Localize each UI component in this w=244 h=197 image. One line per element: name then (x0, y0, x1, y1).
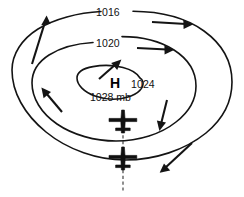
center-pressure-label: 1028 mb (90, 91, 131, 103)
wind-arrow-left (41, 88, 62, 112)
wind-arrow-lower-right (160, 143, 192, 173)
isobar-label-1020: 1020 (96, 37, 120, 49)
weather-diagram: 1016 1020 1024 H 1028 mb (0, 0, 244, 197)
aircraft-lower (109, 147, 137, 170)
isobar-outer-1016 (12, 11, 232, 160)
isobar-label-1024: 1024 (131, 78, 155, 90)
wind-arrow-right-descending (157, 100, 167, 131)
aircraft-upper (109, 110, 137, 133)
isobar-label-1016: 1016 (96, 6, 120, 18)
isobar-diagram-canvas: 1016 1020 1024 H 1028 mb (0, 0, 244, 197)
high-pressure-symbol: H (110, 75, 120, 91)
